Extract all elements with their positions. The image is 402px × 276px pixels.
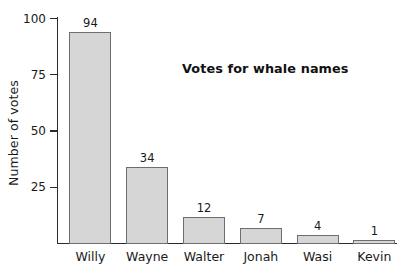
bar[interactable] <box>183 217 225 244</box>
y-tick-label: 50 <box>6 124 46 138</box>
x-axis-category-label: Kevin <box>357 249 391 264</box>
y-tick-label: 75 <box>6 68 46 82</box>
bar-value-label: 7 <box>257 212 264 226</box>
y-tick-mark <box>50 130 57 131</box>
x-axis-category-label: Walter <box>184 249 224 264</box>
bar[interactable] <box>69 32 111 244</box>
chart-title: Votes for whale names <box>182 61 349 76</box>
bar[interactable] <box>353 240 395 244</box>
y-tick-mark <box>50 187 57 188</box>
y-tick-label: 100 <box>6 12 46 26</box>
y-tick-mark <box>50 74 57 75</box>
x-axis-category-label: Willy <box>75 249 105 264</box>
bar[interactable] <box>297 235 339 244</box>
bar-value-label: 12 <box>197 201 212 215</box>
x-axis-category-label: Jonah <box>243 249 278 264</box>
bar[interactable] <box>126 167 168 244</box>
bar-value-label: 34 <box>140 151 155 165</box>
bar-value-label: 94 <box>83 16 98 30</box>
y-axis-line <box>57 17 58 244</box>
x-axis-category-label: Wasi <box>303 249 332 264</box>
y-tick-label: 25 <box>6 180 46 194</box>
y-tick-mark <box>50 18 57 19</box>
bar[interactable] <box>240 228 282 244</box>
bar-chart: Number of votes 255075100 94Willy34Wayne… <box>0 0 402 276</box>
bar-value-label: 1 <box>371 224 378 238</box>
bar-value-label: 4 <box>314 219 321 233</box>
x-axis-category-label: Wayne <box>126 249 168 264</box>
